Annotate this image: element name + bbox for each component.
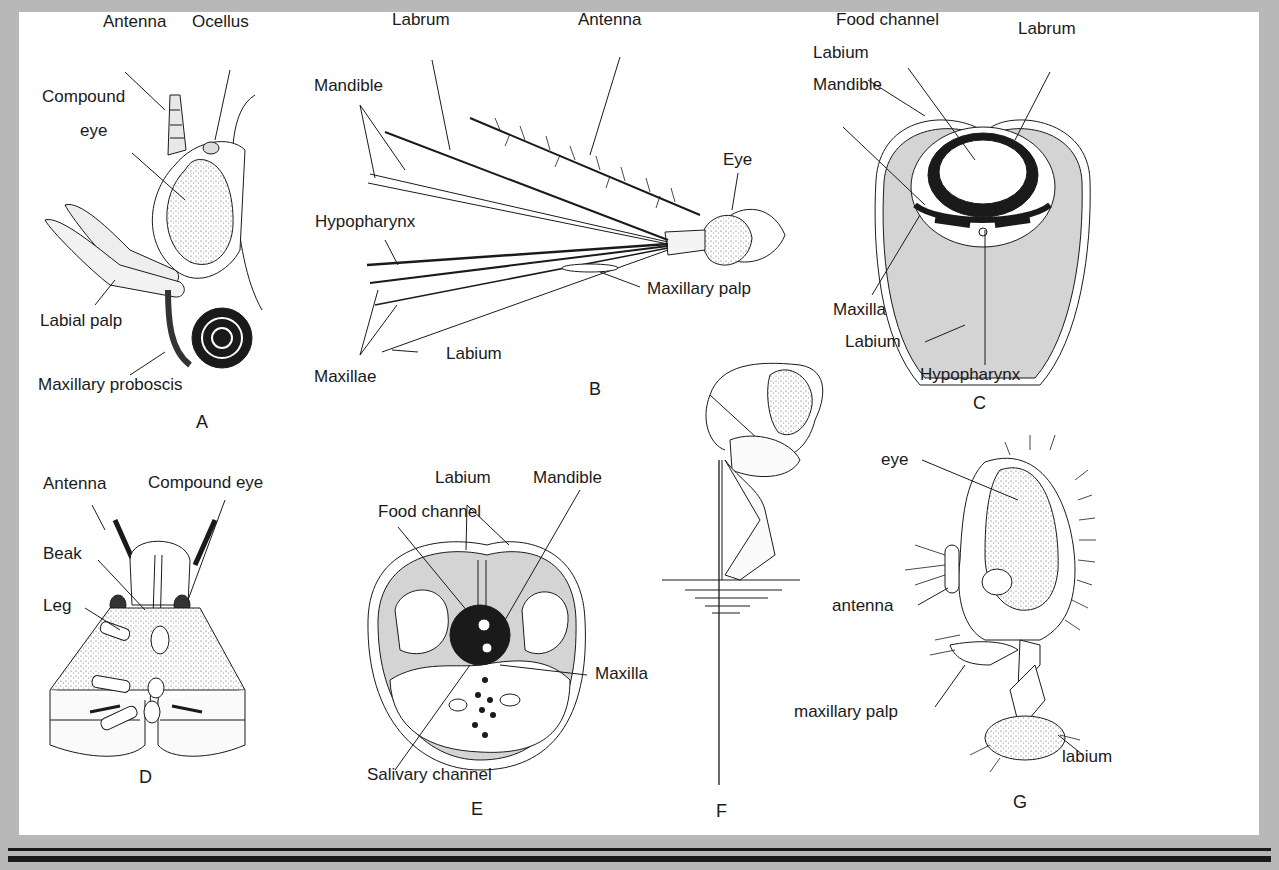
- label-b-antenna: Antenna: [578, 11, 641, 28]
- label-b-hypopharynx: Hypopharynx: [315, 213, 415, 230]
- label-a-labial-palp: Labial palp: [40, 312, 122, 329]
- diagram-artwork: [0, 0, 1279, 870]
- label-g-maxillary-palp: maxillary palp: [794, 703, 898, 720]
- label-c-maxilla: Maxilla: [833, 301, 886, 318]
- label-d-antenna: Antenna: [43, 475, 106, 492]
- label-g-eye: eye: [881, 451, 908, 468]
- label-e-salivary-channel: Salivary channel: [367, 766, 492, 783]
- label-e-maxilla: Maxilla: [595, 665, 648, 682]
- label-a-compound-eye: eye: [80, 122, 107, 139]
- label-a-antenna: Antenna: [103, 13, 166, 30]
- figure-letter-d: D: [139, 768, 152, 786]
- label-e-mandible: Mandible: [533, 469, 602, 486]
- figure-letter-a: A: [196, 413, 208, 431]
- label-g-labium: labium: [1062, 748, 1112, 765]
- label-g-antenna: antenna: [832, 597, 893, 614]
- label-e-labium: Labium: [435, 469, 491, 486]
- mosquito-head-drawing: [360, 57, 785, 355]
- label-d-compound-eye: Compound eye: [148, 474, 263, 491]
- figure-letter-b: B: [589, 380, 601, 398]
- label-b-eye: Eye: [723, 151, 752, 168]
- figure-letter-c: C: [973, 394, 986, 412]
- label-b-maxillary-palp: Maxillary palp: [647, 280, 751, 297]
- label-a-ocellus: Ocellus: [192, 13, 249, 30]
- cross-section-e-drawing: [368, 490, 587, 770]
- figure-letter-g: G: [1013, 793, 1027, 811]
- label-d-beak: Beak: [43, 545, 82, 562]
- label-a-maxillary-proboscis: Maxillary proboscis: [38, 376, 183, 393]
- label-a-compound: Compound: [42, 88, 125, 105]
- label-d-leg: Leg: [43, 597, 71, 614]
- label-c-mandible: Mandible: [813, 76, 882, 93]
- label-b-maxillae: Maxillae: [314, 368, 376, 385]
- label-c-labium-bottom: Labium: [845, 333, 901, 350]
- bug-underside-drawing: [50, 500, 245, 756]
- label-c-food-channel: Food channel: [836, 11, 939, 28]
- label-c-hypopharynx: Hypopharynx: [920, 366, 1020, 383]
- label-b-labium: Labium: [446, 345, 502, 362]
- insect-f-drawing: [662, 363, 823, 785]
- fly-head-drawing: [905, 435, 1096, 772]
- label-c-labrum: Labrum: [1018, 20, 1076, 37]
- label-e-food-channel: Food channel: [378, 503, 481, 520]
- label-b-mandible: Mandible: [314, 77, 383, 94]
- label-b-labrum: Labrum: [392, 11, 450, 28]
- label-c-labium-top: Labium: [813, 44, 869, 61]
- bottom-rule-thin: [8, 848, 1271, 851]
- bottom-rule-thick: [8, 856, 1271, 862]
- figure-letter-f: F: [716, 802, 727, 820]
- figure-letter-e: E: [471, 800, 483, 818]
